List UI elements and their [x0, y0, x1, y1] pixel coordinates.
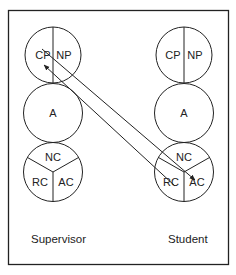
student-a-label: A [180, 107, 188, 119]
student-np-label: NP [187, 49, 202, 61]
supervisor-child-circle: NC RC AC [24, 143, 83, 202]
student-adult-circle: A [155, 84, 214, 143]
supervisor-caption: Supervisor [31, 233, 86, 245]
student-ac-label: AC [189, 176, 204, 188]
student-nc-label: NC [176, 151, 192, 163]
student-child-circle: NC RC AC [155, 143, 214, 202]
arrow-student-ac-to-supervisor-cp [44, 65, 175, 186]
supervisor-ac-label: AC [58, 176, 73, 188]
supervisor-nc-label: NC [45, 151, 61, 163]
student-ego-states: CP NP A NC RC AC Student [155, 27, 214, 245]
arrow-supervisor-cp-to-student-ac [42, 49, 195, 180]
student-parent-circle: CP NP [156, 27, 212, 83]
student-caption: Student [168, 233, 208, 245]
supervisor-np-label: NP [56, 49, 71, 61]
supervisor-a-label: A [49, 107, 57, 119]
student-cp-label: CP [165, 49, 180, 61]
ego-state-diagram: CP NP A NC RC AC Supervisor CP NP A [0, 0, 236, 275]
supervisor-rc-label: RC [32, 176, 48, 188]
